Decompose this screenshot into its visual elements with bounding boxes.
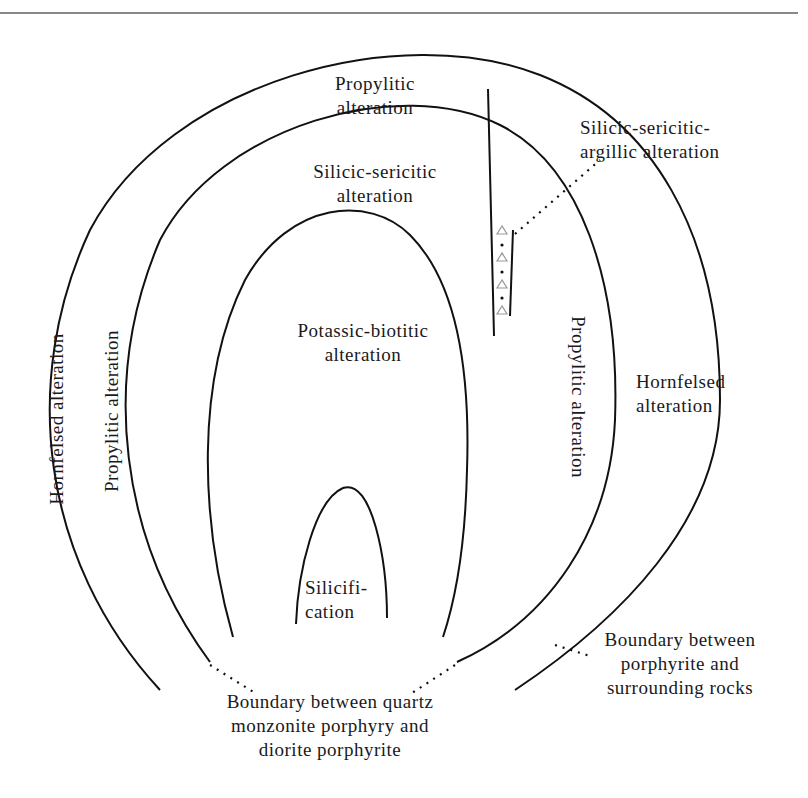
vein-line-left <box>488 89 494 336</box>
label-propylitic-top: Propylitic alteration <box>300 72 450 120</box>
leader-inner-right <box>412 665 455 693</box>
label-hornfelsed-left: Hornfelsed alteration <box>46 319 68 519</box>
label-propylitic-right: Propylitic alteration <box>567 297 589 497</box>
label-boundary-outer: Boundary between porphyrite and surround… <box>580 628 780 700</box>
label-potassic-biotitic: Potassic-biotitic alteration <box>268 319 458 367</box>
label-boundary-inner: Boundary between quartz monzonite porphy… <box>190 690 470 762</box>
potassic-zone-arc <box>208 211 468 637</box>
label-silicification: Silicifi- cation <box>305 576 385 624</box>
alteration-zoning-figure: Propylitic alteration Silicic-sericitic … <box>0 0 808 798</box>
label-hornfelsed-right: Hornfelsed alteration <box>636 370 756 418</box>
label-silicic-sericitic: Silicic-sericitic alteration <box>275 160 475 208</box>
breccia-dots <box>500 243 503 299</box>
leader-inner-left <box>210 665 255 693</box>
leader-argillic <box>515 160 600 234</box>
label-silicic-sericitic-argillic: Silicic-sericitic- argillic alteration <box>580 116 800 164</box>
label-propylitic-left: Propylitic alteration <box>101 311 123 511</box>
vein-line-right <box>510 230 513 316</box>
breccia-symbols <box>497 226 507 314</box>
